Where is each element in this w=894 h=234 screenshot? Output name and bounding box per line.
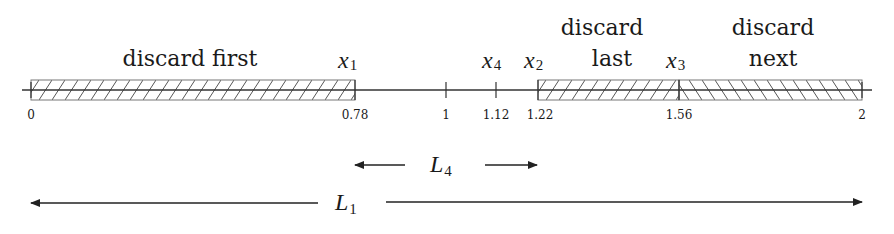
tick-label-1: 1 <box>442 108 450 122</box>
region-label-discard-last-line1: discard <box>561 15 643 40</box>
point-label-x1: x1 <box>337 47 357 73</box>
golden-section-diagram: 0 0.78 1 1.12 1.22 1.56 2 discard first … <box>0 0 894 234</box>
tick-label-2: 2 <box>858 108 866 122</box>
point-label-x4: x4 <box>481 47 502 73</box>
interval-L1: L1 <box>31 189 862 217</box>
region-label-discard-last-line2: last <box>592 46 632 71</box>
interval-L4: L4 <box>355 151 537 179</box>
tick-label-1-22: 1.22 <box>527 108 554 122</box>
region-label-discard-next-line1: discard <box>732 15 814 40</box>
tick-label-0-78: 0.78 <box>342 108 369 122</box>
tick-label-1-56: 1.56 <box>666 108 693 122</box>
interval-label-L1: L1 <box>334 189 357 217</box>
region-label-discard-first: discard first <box>123 46 258 71</box>
point-label-x3: x3 <box>665 47 685 73</box>
tick-label-1-12: 1.12 <box>483 108 510 122</box>
point-label-x2: x2 <box>523 47 543 73</box>
tick-label-0: 0 <box>27 108 35 122</box>
interval-label-L4: L4 <box>429 151 452 179</box>
region-label-discard-next-line2: next <box>749 46 798 71</box>
